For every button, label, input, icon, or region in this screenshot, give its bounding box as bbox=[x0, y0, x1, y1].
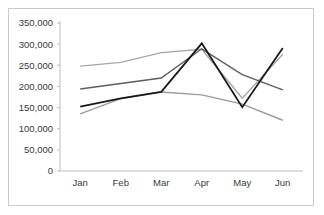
x-tick-label: May bbox=[233, 177, 251, 188]
y-tick-label: 100,000 bbox=[19, 123, 53, 134]
y-tick-label: 200,000 bbox=[19, 81, 53, 92]
y-tick-label: 50,000 bbox=[24, 144, 53, 155]
series-line-series-4-black bbox=[80, 43, 283, 107]
y-tick-label: 300,000 bbox=[19, 39, 53, 50]
line-chart: 050,000100,000150,000200,000250,000300,0… bbox=[9, 9, 315, 207]
x-tick-label: Mar bbox=[153, 177, 169, 188]
chart-frame: 050,000100,000150,000200,000250,000300,0… bbox=[8, 8, 314, 206]
y-tick-label: 350,000 bbox=[19, 17, 53, 28]
y-tick-label: 150,000 bbox=[19, 102, 53, 113]
y-tick-label: 0 bbox=[48, 165, 53, 176]
series-line-series-3-low-gray bbox=[80, 92, 283, 120]
y-tick-label: 250,000 bbox=[19, 60, 53, 71]
chart-canvas: 050,000100,000150,000200,000250,000300,0… bbox=[9, 9, 315, 207]
x-tick-label: Jan bbox=[73, 177, 88, 188]
x-tick-label: Feb bbox=[113, 177, 129, 188]
x-tick-label: Apr bbox=[194, 177, 209, 188]
series-line-series-2-mid-gray bbox=[80, 49, 283, 90]
x-tick-label: Jun bbox=[275, 177, 290, 188]
